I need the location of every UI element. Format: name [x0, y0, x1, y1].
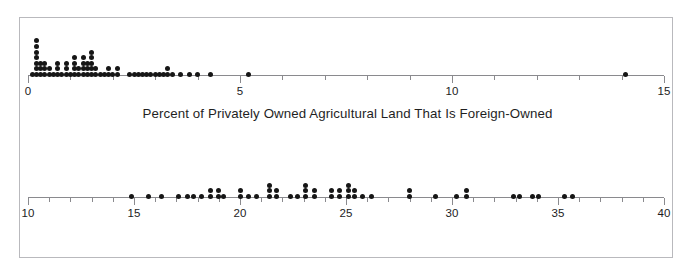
x-axis-major-tick: [240, 76, 241, 83]
x-axis-minor-tick: [516, 198, 517, 202]
x-axis-major-tick: [28, 76, 29, 83]
data-point-dot: [511, 194, 516, 199]
plot-area-1: 051015: [0, 0, 695, 100]
x-axis-tick-label: 15: [644, 85, 684, 97]
x-axis-minor-tick: [388, 198, 389, 202]
data-point-dot: [178, 72, 183, 77]
x-axis-tick-label: 15: [114, 207, 154, 219]
x-axis-minor-tick: [113, 198, 114, 202]
panel-foreign-owned-land: 051015 Percent of Privately Owned Agricu…: [0, 0, 695, 135]
data-point-dot: [570, 194, 575, 199]
data-point-dot: [34, 55, 39, 60]
x-axis-minor-tick: [325, 76, 326, 80]
data-point-dot: [407, 188, 412, 193]
data-point-dot: [146, 194, 151, 199]
data-point-dot: [115, 72, 120, 77]
data-point-dot: [34, 38, 39, 43]
data-point-dot: [208, 188, 213, 193]
x-axis-minor-tick: [198, 198, 199, 202]
data-point-dot: [42, 61, 47, 66]
x-axis-tick-label: 0: [8, 85, 48, 97]
data-point-dot: [55, 61, 60, 66]
x-axis-minor-tick: [70, 198, 71, 202]
data-point-dot: [238, 188, 243, 193]
data-point-dot: [267, 183, 272, 188]
x-axis-line: [28, 75, 664, 76]
data-point-dot: [352, 194, 357, 199]
data-point-dot: [170, 72, 175, 77]
x-axis-minor-tick: [282, 76, 283, 80]
data-point-dot: [352, 188, 357, 193]
data-point-dot: [530, 194, 535, 199]
data-point-dot: [517, 194, 522, 199]
data-point-dot: [81, 55, 86, 60]
x-axis-minor-tick: [579, 198, 580, 202]
plot-area-2: 10152025303540: [0, 135, 695, 207]
x-axis-major-tick: [134, 198, 135, 205]
dotplot-figure: 051015 Percent of Privately Owned Agricu…: [0, 0, 695, 278]
x-axis-major-tick: [664, 198, 665, 205]
x-axis-minor-tick: [537, 76, 538, 80]
x-axis-minor-tick: [282, 198, 283, 202]
data-point-dot: [623, 72, 628, 77]
data-point-dot: [337, 188, 342, 193]
data-point-dot: [254, 194, 259, 199]
data-point-dot: [72, 61, 77, 66]
data-point-dot: [185, 194, 190, 199]
x-axis-minor-tick: [473, 198, 474, 202]
x-axis-tick-label: 10: [432, 85, 472, 97]
x-axis-minor-tick: [49, 198, 50, 202]
data-point-dot: [562, 194, 567, 199]
x-axis-minor-tick: [579, 76, 580, 80]
data-point-dot: [106, 66, 111, 71]
x-axis-major-tick: [452, 198, 453, 205]
x-axis-minor-tick: [325, 198, 326, 202]
x-axis-major-tick: [346, 198, 347, 205]
data-point-dot: [221, 194, 226, 199]
data-point-dot: [216, 188, 221, 193]
x-axis-minor-tick: [622, 198, 623, 202]
data-point-dot: [346, 183, 351, 188]
data-point-dot: [238, 194, 243, 199]
data-point-dot: [288, 194, 293, 199]
data-point-dot: [34, 50, 39, 55]
data-point-dot: [89, 50, 94, 55]
x-axis-minor-tick: [367, 198, 368, 202]
x-axis-minor-tick: [643, 198, 644, 202]
x-axis-tick-label: 10: [8, 207, 48, 219]
data-point-dot: [329, 188, 334, 193]
data-point-dot: [267, 194, 272, 199]
data-point-dot: [295, 194, 300, 199]
data-point-dot: [536, 194, 541, 199]
data-point-dot: [93, 66, 98, 71]
x-axis-major-tick: [452, 76, 453, 83]
x-axis-minor-tick: [494, 76, 495, 80]
x-axis-minor-tick: [155, 198, 156, 202]
caption-1: Percent of Privately Owned Agricultural …: [0, 106, 695, 121]
data-point-dot: [115, 66, 120, 71]
data-point-dot: [464, 194, 469, 199]
data-point-dot: [47, 66, 52, 71]
x-axis-minor-tick: [410, 76, 411, 80]
data-point-dot: [64, 61, 69, 66]
x-axis-minor-tick: [92, 198, 93, 202]
x-axis-major-tick: [558, 198, 559, 205]
x-axis-minor-tick: [431, 198, 432, 202]
x-axis-tick-label: 5: [220, 85, 260, 97]
panel-adults-not-graduating: 10152025303540 Percent of Adults Not Gra…: [0, 135, 695, 278]
data-point-dot: [64, 66, 69, 71]
data-point-dot: [312, 188, 317, 193]
data-point-dot: [267, 188, 272, 193]
data-point-dot: [72, 55, 77, 60]
data-point-dot: [360, 194, 365, 199]
data-point-dot: [165, 66, 170, 71]
data-point-dot: [274, 194, 279, 199]
data-point-dot: [159, 194, 164, 199]
data-point-dot: [337, 194, 342, 199]
data-point-dot: [464, 188, 469, 193]
data-point-dot: [346, 194, 351, 199]
data-point-dot: [195, 72, 200, 77]
data-point-dot: [208, 72, 213, 77]
x-axis-tick-label: 40: [644, 207, 684, 219]
data-point-dot: [407, 194, 412, 199]
